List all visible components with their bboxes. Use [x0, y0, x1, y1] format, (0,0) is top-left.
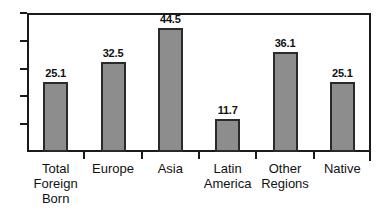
bar[interactable]: [273, 52, 298, 152]
bar-value-label: 36.1: [255, 37, 315, 49]
category-label-line: Regions: [240, 176, 330, 191]
category-label-line: Born: [11, 191, 101, 206]
bar-value-label: 25.1: [26, 67, 86, 79]
bar-value-label: 44.5: [140, 13, 200, 25]
x-axis-category-label: Native: [297, 161, 387, 176]
bar-chart: 25.132.544.511.736.125.1 TotalForeignBor…: [0, 0, 389, 216]
category-label-line: Foreign: [11, 176, 101, 191]
bar[interactable]: [43, 82, 68, 152]
bar[interactable]: [215, 119, 240, 152]
bar[interactable]: [101, 62, 126, 152]
bar-value-label: 11.7: [198, 104, 258, 116]
bar[interactable]: [158, 28, 183, 152]
bar-value-label: 32.5: [83, 47, 143, 59]
category-label-line: Native: [297, 161, 387, 176]
bar-value-label: 25.1: [312, 67, 372, 79]
bar[interactable]: [330, 82, 355, 152]
